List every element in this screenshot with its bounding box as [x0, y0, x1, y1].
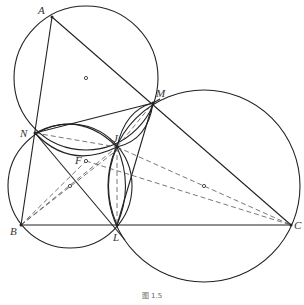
figure-caption: 图 1.5: [0, 290, 304, 300]
dash-jm: [117, 103, 153, 147]
label-l: L: [113, 232, 119, 243]
center-point-2: [68, 184, 71, 187]
dash-bf: [21, 161, 86, 225]
label-n: N: [20, 128, 27, 139]
label-j: J: [113, 133, 118, 144]
arc-jl-left: [109, 147, 118, 225]
line-ab: [21, 17, 52, 225]
center-point-3: [202, 184, 205, 187]
geometry-figure: A M N J F B L C 图 1.5: [0, 0, 304, 305]
diagram-canvas: [0, 0, 304, 305]
line-ac: [52, 17, 291, 225]
label-c: C: [294, 220, 301, 231]
arc-jl-right: [117, 147, 126, 225]
label-m: M: [156, 88, 165, 99]
label-b: B: [10, 226, 17, 237]
label-f: F: [75, 155, 82, 166]
center-point-1: [84, 76, 87, 79]
label-a: A: [38, 5, 45, 16]
point-f: [84, 159, 87, 162]
